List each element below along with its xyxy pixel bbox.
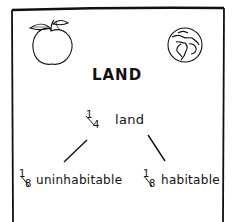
root-label: land	[115, 112, 144, 127]
globe-icon	[168, 28, 202, 62]
connector-right	[148, 135, 165, 161]
apple-icon	[30, 20, 72, 64]
diagram-frame	[0, 0, 234, 222]
child-fraction-denominator: 8	[25, 179, 31, 189]
diagram-title: LAND	[0, 66, 234, 84]
root-fraction-denominator: 4	[93, 120, 99, 130]
connector-left	[64, 140, 87, 162]
child-label: habitable	[161, 173, 220, 187]
root-fraction-numerator: 1	[86, 110, 92, 120]
child-fraction-denominator: 8	[149, 179, 155, 189]
child-label: uninhabitable	[36, 173, 122, 187]
